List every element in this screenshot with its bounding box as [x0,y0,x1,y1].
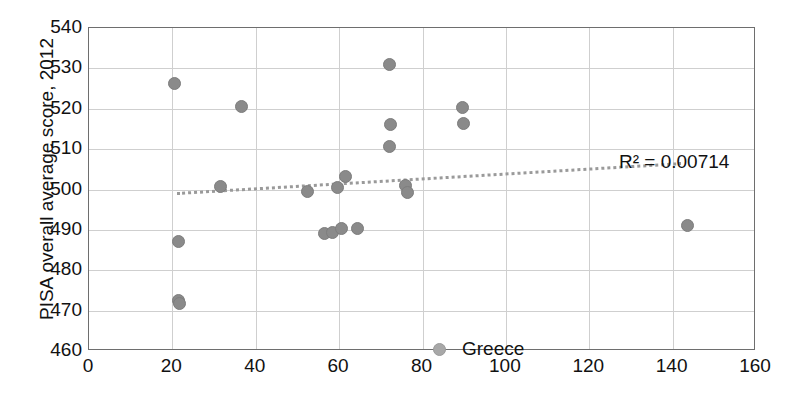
y-axis-tick-label: 470 [30,299,82,321]
data-point [383,140,396,153]
legend-marker-icon [433,343,446,356]
y-axis-tick-label: 540 [30,16,82,38]
data-point [681,219,694,232]
data-point [301,185,314,198]
gridline-horizontal [89,149,754,150]
data-point [172,235,185,248]
plot-area: R² = 0.00714 Greece [88,27,755,350]
legend-item-label: Greece [462,338,524,360]
y-axis-tick-label: 490 [30,218,82,240]
gridline-vertical [673,28,674,349]
data-point [351,222,364,235]
r-squared-annotation: R² = 0.00714 [619,151,729,173]
x-axis-tick-label: 140 [642,355,702,377]
gridline-horizontal [89,311,754,312]
gridline-vertical [423,28,424,349]
data-point [383,58,396,71]
gridline-vertical [506,28,507,349]
data-point [456,101,469,114]
data-point [214,180,227,193]
x-axis-tick-label: 120 [558,355,618,377]
chart-legend: Greece [433,338,524,360]
gridline-horizontal [89,68,754,69]
data-point [235,100,248,113]
x-axis-tick-label: 160 [725,355,785,377]
y-axis-tick-label: 530 [30,56,82,78]
data-point [401,186,414,199]
x-axis-tick-label: 60 [308,355,368,377]
y-axis-tick-label: 510 [30,137,82,159]
y-axis-tick-label: 500 [30,178,82,200]
gridline-horizontal [89,230,754,231]
y-axis-tick-label: 480 [30,258,82,280]
data-point [335,222,348,235]
gridline-vertical [589,28,590,349]
gridline-horizontal [89,109,754,110]
x-axis-tick-label: 40 [225,355,285,377]
scatter-chart: PISA overall average score, 2012 4604704… [0,0,788,398]
x-axis-tick-label: 20 [141,355,201,377]
data-point [173,297,186,310]
data-point [339,170,352,183]
data-point [457,117,470,130]
data-point [331,181,344,194]
data-point [384,118,397,131]
y-axis-tick-label: 520 [30,97,82,119]
x-axis-tick-label: 0 [58,355,118,377]
data-point [168,77,181,90]
gridline-horizontal [89,270,754,271]
